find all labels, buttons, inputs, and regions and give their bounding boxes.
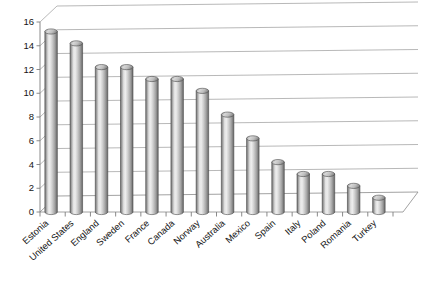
bar-cap (171, 76, 184, 81)
bar-cap (146, 76, 159, 81)
bar-body (297, 174, 310, 215)
bar-body (196, 91, 209, 215)
gridline-0 (57, 192, 418, 196)
bar-cap (347, 183, 360, 188)
bar-england (95, 65, 108, 215)
bar-cap (121, 65, 134, 70)
gridline-riser-16 (40, 6, 57, 22)
bar-cap (247, 136, 259, 141)
gridline-16 (57, 2, 418, 6)
gridline-2 (57, 168, 418, 172)
x-axis-label-spain: Spain (253, 218, 277, 241)
bar-turkey (373, 195, 386, 214)
y-tick-label-10: 10 (23, 87, 34, 98)
bar-body (95, 67, 108, 214)
bar-body (272, 162, 285, 214)
x-axis-label-mexico: Mexico (224, 218, 253, 245)
bar-cap (373, 195, 386, 200)
bar-united-states (70, 41, 83, 215)
y-tick-label-6: 6 (29, 135, 34, 146)
bar-body (70, 43, 83, 214)
gridline-8 (57, 97, 418, 101)
x-axis-label-turkey: Turkey (351, 218, 379, 244)
x-axis-labels: EstoniaUnited StatesEnglandSwedenFranceC… (21, 218, 379, 263)
bar-cap (221, 112, 234, 117)
y-tick-label-0: 0 (29, 206, 34, 217)
bar-cap (196, 88, 209, 93)
bar-romania (347, 183, 360, 214)
bar-body (121, 67, 134, 214)
x-axis-label-sweden: Sweden (94, 218, 126, 248)
bar-body (247, 138, 260, 214)
y-tick-label-12: 12 (23, 64, 34, 75)
bar-italy (297, 171, 310, 214)
x-axis-ticks (40, 212, 393, 217)
y-axis: 0246810121416 (23, 16, 40, 217)
bar-spain (272, 160, 285, 215)
bar-norway (196, 88, 209, 214)
bar-estonia (45, 29, 58, 215)
gridline-6 (57, 121, 418, 125)
gridline-4 (57, 145, 418, 149)
gridline-10 (57, 73, 418, 77)
bar-cap (70, 41, 83, 46)
bar-body (347, 186, 360, 215)
floor-right-edge (403, 192, 418, 212)
bar-cap (95, 65, 108, 70)
bar-australia (221, 112, 234, 215)
bar-body (322, 174, 335, 215)
y-tick-label-16: 16 (23, 16, 34, 27)
y-tick-label-8: 8 (29, 111, 34, 122)
bar-body (146, 79, 159, 215)
gridline-12 (57, 50, 418, 54)
bar-body (45, 32, 58, 215)
bar-cap (272, 160, 285, 165)
y-tick-label-4: 4 (29, 159, 34, 170)
bar-cap (322, 171, 335, 176)
bar-cap (45, 29, 58, 34)
x-axis-label-canada: Canada (146, 218, 178, 248)
bar-cap (297, 171, 310, 176)
bar-chart-3d: 0246810121416 EstoniaUnited StatesEnglan… (0, 0, 431, 284)
bar-body (171, 79, 184, 215)
bar-mexico (247, 136, 260, 215)
bar-canada (171, 76, 184, 214)
bar-body (221, 115, 234, 215)
bar-poland (322, 171, 335, 214)
bar-sweden (121, 65, 134, 215)
y-tick-label-14: 14 (23, 40, 34, 51)
x-axis-label-italy: Italy (283, 218, 303, 237)
bar-france (146, 76, 159, 214)
gridline-14 (57, 26, 418, 30)
y-tick-label-2: 2 (29, 182, 34, 193)
chart-container: 0246810121416 EstoniaUnited StatesEnglan… (0, 0, 431, 284)
